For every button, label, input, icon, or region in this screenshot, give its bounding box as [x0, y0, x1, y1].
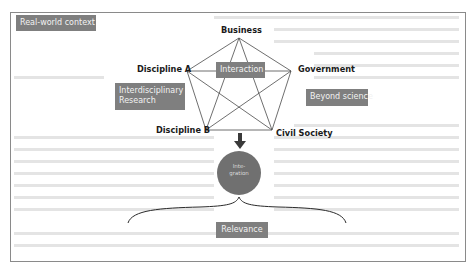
integration-line-1: Inte-	[221, 163, 257, 170]
relevance-label: Relevance	[216, 222, 268, 238]
node-business: Business	[221, 25, 262, 35]
pentagon-outline	[187, 38, 291, 130]
real-world-context-label: Real-world context	[16, 15, 96, 31]
node-discipline-a: Discipline A	[137, 64, 191, 74]
down-arrow-icon	[234, 133, 246, 149]
interaction-label: Interaction	[216, 62, 265, 78]
integration-line-2: gration	[221, 170, 257, 177]
beyond-science-label: Beyond science	[306, 89, 368, 106]
integration-label: Inte- gration	[221, 163, 257, 177]
interdisciplinary-research-line-2: Research	[119, 96, 181, 106]
node-government: Government	[298, 64, 355, 74]
interdisciplinary-research-label: Interdisciplinary Research	[115, 83, 185, 110]
pentagon-network	[187, 38, 291, 130]
node-discipline-b: Discipline B	[156, 125, 210, 135]
curly-brace	[128, 197, 346, 223]
interdisciplinary-research-line-1: Interdisciplinary	[119, 86, 181, 96]
node-civil-society: Civil Society	[276, 128, 333, 138]
